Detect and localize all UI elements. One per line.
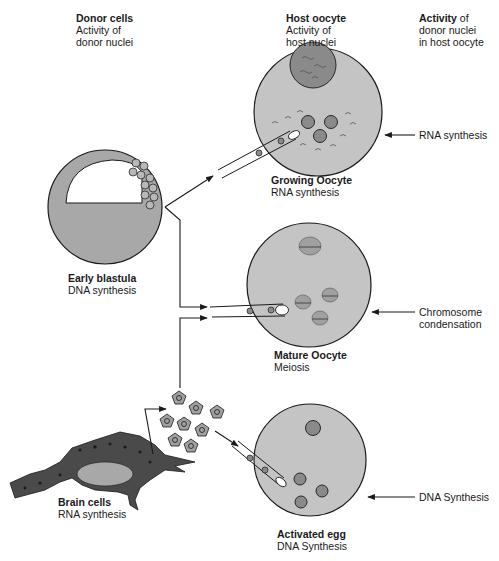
host-oocyte-line1: Activity of (286, 24, 346, 36)
result-2-line2: condensation (419, 318, 482, 330)
activity-header: Activity of donor nuclei in host oocyte (419, 12, 484, 48)
mature-oocyte-illustration (210, 223, 371, 347)
result-3-line1: DNA Synthesis (419, 491, 489, 503)
growing-oocyte-illustration (218, 42, 382, 178)
result-2-line1: Chromosome (419, 306, 482, 318)
host-oocyte-line2: host nuclei (286, 36, 346, 48)
donor-cells-line1: Activity of (76, 24, 133, 36)
donor-cells-header: Donor cells Activity of donor nuclei (76, 12, 133, 48)
brain-cells-label: Brain cells RNA synthesis (58, 496, 126, 520)
activated-egg-label: Activated egg DNA Synthesis (277, 528, 347, 552)
host-oocyte-title: Host oocyte (286, 12, 346, 24)
mature-oocyte-activity: Meiosis (274, 361, 347, 373)
brain-cells-activity: RNA synthesis (58, 508, 126, 520)
blastula-to-growing-oocyte-arrow (165, 176, 213, 207)
early-blastula-illustration (48, 150, 162, 264)
early-blastula-name: Early blastula (68, 272, 136, 284)
growing-oocyte-activity: RNA synthesis (271, 186, 352, 198)
donor-cells-line2: donor nuclei (76, 36, 133, 48)
activity-title-bold: Activity (419, 12, 457, 24)
mature-oocyte-label: Mature Oocyte Meiosis (274, 349, 347, 373)
host-oocyte-header: Host oocyte Activity of host nuclei (286, 12, 346, 48)
activated-egg-illustration (232, 404, 366, 516)
early-blastula-label: Early blastula DNA synthesis (68, 272, 136, 296)
brain-cells-name: Brain cells (58, 496, 126, 508)
dna-synthesis-result-label: DNA Synthesis (419, 491, 489, 503)
growing-oocyte-name: Growing Oocyte (271, 174, 352, 186)
activity-title-rest: of (457, 12, 469, 24)
mature-oocyte-name: Mature Oocyte (274, 349, 347, 361)
activated-egg-activity: DNA Synthesis (277, 540, 347, 552)
growing-oocyte-label: Growing Oocyte RNA synthesis (271, 174, 352, 198)
blastula-to-mature-oocyte-arrow (165, 207, 207, 307)
rna-synthesis-result-label: RNA synthesis (419, 129, 487, 141)
brain-to-mature-oocyte-arrow (180, 318, 207, 388)
early-blastula-activity: DNA synthesis (68, 284, 136, 296)
activity-line1: donor nuclei (419, 24, 484, 36)
brain-cells-cluster (160, 391, 224, 452)
donor-cells-title: Donor cells (76, 12, 133, 24)
brain-cells-to-activated-egg-arrow (215, 431, 238, 446)
activity-line2: in host oocyte (419, 36, 484, 48)
activated-egg-name: Activated egg (277, 528, 347, 540)
chromosome-condensation-result-label: Chromosome condensation (419, 306, 482, 330)
result-1-line1: RNA synthesis (419, 129, 487, 141)
